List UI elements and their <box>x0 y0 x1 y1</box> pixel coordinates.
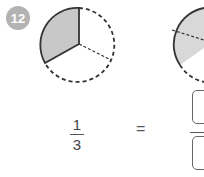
numerator-answer-box[interactable] <box>192 90 204 124</box>
denominator: 3 <box>70 136 84 153</box>
left-pie-chart <box>38 4 122 88</box>
shaded-sector <box>40 8 79 63</box>
right-pie-chart <box>170 4 204 88</box>
fraction-bar <box>70 134 84 135</box>
problem-number-badge: 12 <box>6 6 30 30</box>
denominator-answer-box[interactable] <box>192 136 204 170</box>
numerator: 1 <box>70 116 84 133</box>
fraction-one-third: 1 3 <box>70 116 84 153</box>
equals-sign: = <box>136 120 145 138</box>
answer-fraction-bar <box>190 132 204 133</box>
dashed-divider <box>79 44 111 60</box>
